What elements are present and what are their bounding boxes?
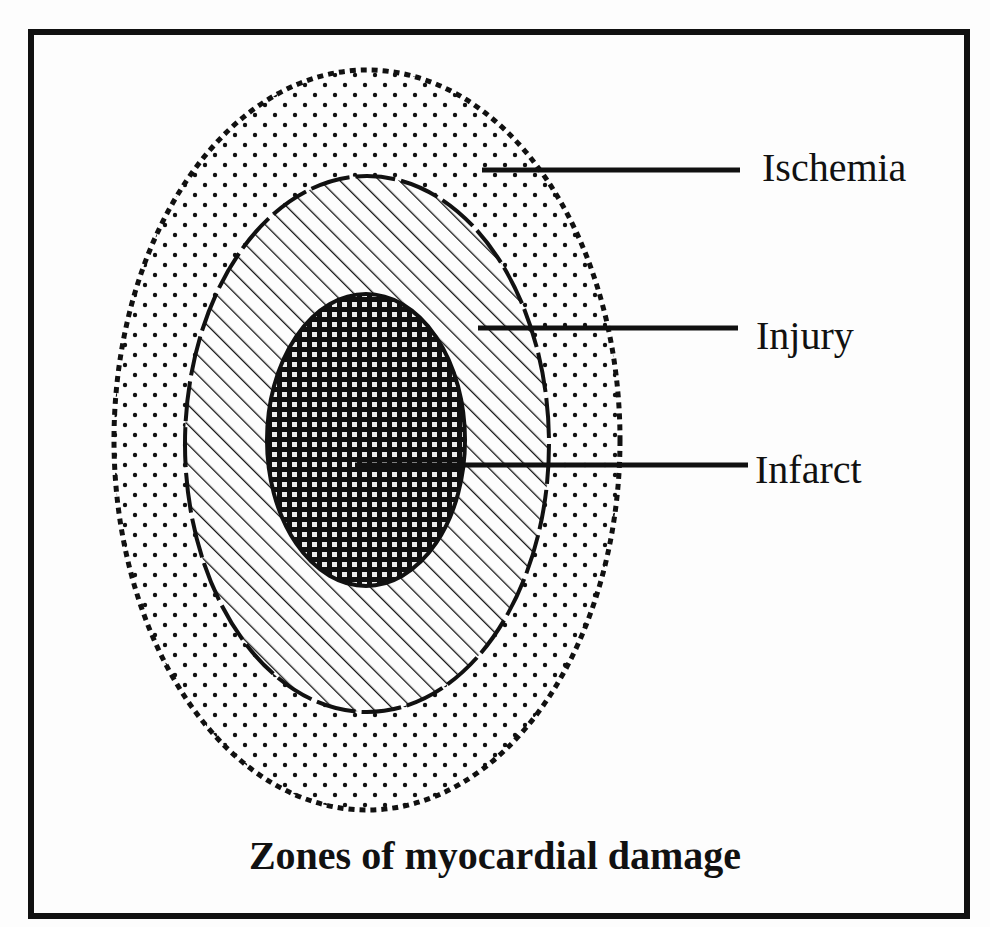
injury-label: Injury [756,316,854,356]
infarct-zone [267,294,465,586]
ischemia-label: Ischemia [762,148,906,188]
infarct-label: Infarct [755,450,862,490]
diagram-title: Zones of myocardial damage [0,836,990,876]
